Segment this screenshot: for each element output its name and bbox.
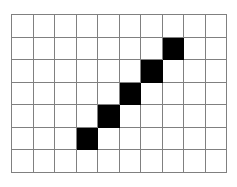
grid-cell-empty (33, 127, 55, 150)
grid-cell-empty (141, 82, 163, 105)
grid-cell-empty (184, 150, 206, 173)
grid-row (12, 127, 227, 150)
grid-cell-empty (205, 127, 227, 150)
grid-table (11, 14, 227, 173)
grid-cell-empty (76, 60, 98, 83)
grid-cell-empty (141, 105, 163, 128)
grid-cell-empty (98, 82, 120, 105)
grid-cell-empty (33, 82, 55, 105)
grid-cell-empty (55, 37, 77, 60)
grid-cell-empty (162, 60, 184, 83)
grid-cell-empty (33, 37, 55, 60)
grid-cell-empty (33, 105, 55, 128)
grid-cell-empty (12, 105, 34, 128)
grid-cell-filled (98, 105, 120, 128)
grid-cell-empty (76, 82, 98, 105)
grid-cell-empty (162, 15, 184, 38)
grid-cell-empty (33, 150, 55, 173)
grid-cell-empty (12, 15, 34, 38)
grid-cell-empty (76, 105, 98, 128)
grid-cell-empty (98, 15, 120, 38)
grid-cell-empty (119, 37, 141, 60)
grid-cell-empty (184, 127, 206, 150)
grid-cell-empty (76, 150, 98, 173)
grid-cell-filled (76, 127, 98, 150)
grid-cell-empty (205, 37, 227, 60)
grid-cell-empty (33, 15, 55, 38)
grid-row (12, 37, 227, 60)
grid-row (12, 15, 227, 38)
grid-row (12, 60, 227, 83)
grid-cell-empty (55, 105, 77, 128)
grid-cell-empty (205, 105, 227, 128)
grid-cell-empty (55, 150, 77, 173)
grid-cell-empty (12, 127, 34, 150)
grid-cell-empty (98, 60, 120, 83)
grid-cell-empty (162, 105, 184, 128)
grid-cell-empty (205, 150, 227, 173)
grid-cell-filled (119, 82, 141, 105)
grid-cell-empty (12, 82, 34, 105)
grid-cell-empty (184, 60, 206, 83)
grid-cell-empty (55, 60, 77, 83)
grid-cell-empty (141, 15, 163, 38)
grid-cell-empty (12, 150, 34, 173)
grid-cell-filled (141, 60, 163, 83)
grid-cell-empty (205, 82, 227, 105)
grid-cell-empty (55, 127, 77, 150)
grid-cell-empty (12, 37, 34, 60)
grid-cell-empty (141, 150, 163, 173)
grid-cell-empty (141, 37, 163, 60)
grid-cell-empty (76, 37, 98, 60)
grid-cell-empty (141, 127, 163, 150)
grid-cell-empty (55, 82, 77, 105)
grid-row (12, 105, 227, 128)
grid-cell-empty (184, 105, 206, 128)
grid-cell-empty (162, 127, 184, 150)
grid-cell-empty (184, 15, 206, 38)
grid-cell-empty (119, 15, 141, 38)
grid-cell-empty (162, 82, 184, 105)
grid-cell-empty (119, 127, 141, 150)
grid-row (12, 150, 227, 173)
grid-cell-empty (205, 60, 227, 83)
grid-cell-empty (12, 60, 34, 83)
grid-row (12, 82, 227, 105)
grid-figure (11, 14, 227, 173)
grid-cell-empty (119, 150, 141, 173)
grid-cell-empty (184, 37, 206, 60)
grid-cell-empty (119, 105, 141, 128)
grid-cell-empty (98, 150, 120, 173)
grid-cell-empty (55, 15, 77, 38)
grid-cell-empty (162, 150, 184, 173)
grid-cell-empty (76, 15, 98, 38)
grid-cell-empty (184, 82, 206, 105)
grid-cell-empty (98, 37, 120, 60)
grid-cell-empty (98, 127, 120, 150)
grid-body (12, 15, 227, 173)
grid-cell-empty (119, 60, 141, 83)
grid-cell-filled (162, 37, 184, 60)
grid-cell-empty (205, 15, 227, 38)
grid-cell-empty (33, 60, 55, 83)
